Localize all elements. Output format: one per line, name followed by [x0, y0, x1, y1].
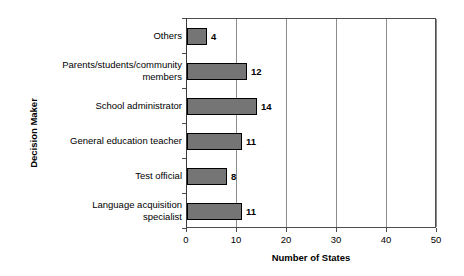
gridline: [236, 19, 237, 227]
category-label-line: specialist: [36, 211, 182, 223]
category-label-line: Others: [36, 30, 182, 42]
gridline: [436, 19, 437, 227]
category-label-line: General education teacher: [36, 135, 182, 147]
bar-value-label: 14: [261, 98, 272, 115]
x-tick-label: 10: [221, 234, 251, 245]
gridline: [286, 19, 287, 227]
category-label: General education teacher: [36, 135, 182, 147]
bar-value-label: 11: [246, 133, 256, 150]
x-axis-title: Number of States: [186, 252, 436, 263]
x-tick-mark: [186, 228, 187, 232]
bar: [187, 203, 242, 220]
category-label-line: Parents/students/community: [36, 59, 182, 71]
category-label-line: Language acquisition: [36, 199, 182, 211]
x-tick-label: 40: [371, 234, 401, 245]
bar-value-label: 11: [246, 203, 256, 220]
bar: [187, 133, 242, 150]
bar-chart: Decision Maker OthersParents/students/co…: [0, 0, 464, 276]
category-label: Test official: [36, 170, 182, 182]
x-tick-mark: [236, 228, 237, 232]
bar-value-label: 8: [231, 168, 236, 185]
x-tick-mark: [286, 228, 287, 232]
x-tick-label: 50: [421, 234, 451, 245]
category-label: School administrator: [36, 100, 182, 112]
x-tick-label: 0: [171, 234, 201, 245]
category-label-line: members: [36, 71, 182, 83]
bar-value-label: 12: [251, 63, 262, 80]
x-tick-mark: [436, 228, 437, 232]
x-tick-label: 30: [321, 234, 351, 245]
x-tick-mark: [336, 228, 337, 232]
bar-value-label: 4: [211, 28, 216, 45]
gridline: [336, 19, 337, 227]
category-label-line: School administrator: [36, 100, 182, 112]
category-label-line: Test official: [36, 170, 182, 182]
plot-area: 4121411811: [186, 18, 436, 228]
gridline: [386, 19, 387, 227]
x-tick-label: 20: [271, 234, 301, 245]
category-label-list: OthersParents/students/communitymembersS…: [36, 18, 182, 228]
category-label: Others: [36, 30, 182, 42]
bar: [187, 168, 227, 185]
bar: [187, 63, 247, 80]
category-label: Parents/students/communitymembers: [36, 59, 182, 82]
bar: [187, 98, 257, 115]
x-tick-mark: [386, 228, 387, 232]
category-label: Language acquisitionspecialist: [36, 199, 182, 222]
bar: [187, 28, 207, 45]
